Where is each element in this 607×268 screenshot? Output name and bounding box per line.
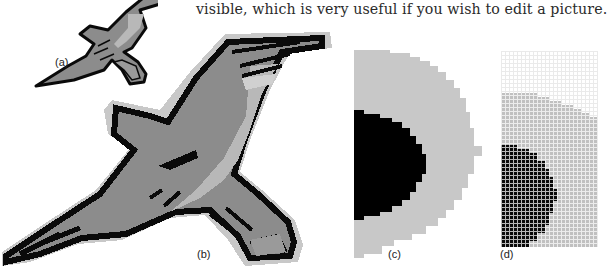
bird-enlarged-image [0, 30, 345, 268]
panel-c-label: (c) [388, 248, 401, 260]
panel-d-label: (d) [500, 248, 513, 260]
panel-b-label: (b) [197, 248, 210, 260]
pixel-grid-image [501, 51, 598, 247]
eye-zoom-image [354, 50, 486, 260]
body-text-line: visible, which is very useful if you wis… [196, 1, 607, 17]
